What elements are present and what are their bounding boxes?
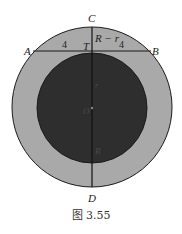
label-at-length: 4 [62,39,67,50]
label-t: T [83,40,90,52]
center-point [91,107,93,109]
label-od-length: R [94,146,101,156]
figure-caption: 图 3.55 [0,206,182,222]
label-d: D [87,192,96,204]
label-a: A [23,45,31,57]
annulus-diagram: C A B T D O 4 4 R − r r R [0,0,182,234]
label-tb-length: 4 [119,39,124,50]
label-o: O [83,106,90,116]
label-b: B [152,45,159,57]
label-to-length: r [95,80,99,90]
label-c: C [88,12,96,24]
label-ct-length: R − r [94,32,120,44]
